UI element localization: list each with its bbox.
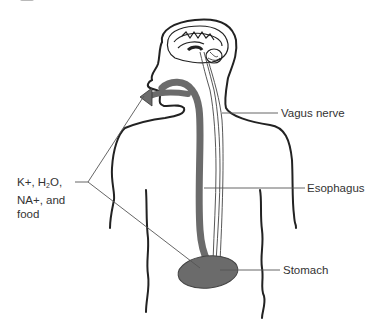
body-illustration — [0, 0, 384, 335]
inputs-label-line3: food — [17, 207, 77, 221]
clipped-caption-fragment — [20, 0, 34, 1]
digestive-vagus-diagram: Vagus nerve Esophagus Stomach K+, H2O, N… — [0, 0, 384, 335]
stomach-label: Stomach — [283, 263, 328, 277]
brain — [167, 26, 228, 63]
inputs-label: K+, H2O, NA+, and food — [17, 175, 77, 221]
vagus-nerve-label: Vagus nerve — [281, 106, 345, 120]
inputs-label-line1: K+, H2O, — [17, 175, 77, 193]
esophagus-label: Esophagus — [307, 181, 365, 195]
mouth-arrow-icon — [140, 88, 152, 106]
leader-lines — [75, 96, 305, 270]
inputs-label-line2: NA+, and — [17, 193, 77, 207]
stomach-shape — [176, 253, 239, 291]
mouth-tube — [150, 93, 188, 96]
